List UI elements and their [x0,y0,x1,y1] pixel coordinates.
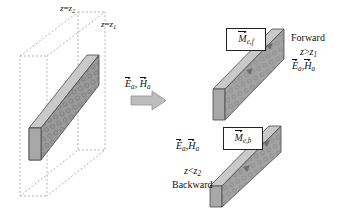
plane-label-z2: z=z2 [60,4,75,14]
fields-label-middle: Ea, Ha [125,79,151,91]
forward-source-box: Me,f [226,28,266,51]
plane-label-z1: z=z1 [101,20,116,30]
fields-label-forward: Ea,Ha [292,61,315,73]
original-slab [29,55,99,160]
fields-label-backward: Ea,Ha [176,141,199,153]
backward-source-box: Me,b [223,127,263,150]
backward-caption: Backward [172,180,213,190]
backward-region-label: z<z2 [184,166,201,178]
forward-region-label: z>z1 [300,47,317,59]
forward-caption: Forward [291,33,325,43]
transform-arrow [131,91,166,110]
